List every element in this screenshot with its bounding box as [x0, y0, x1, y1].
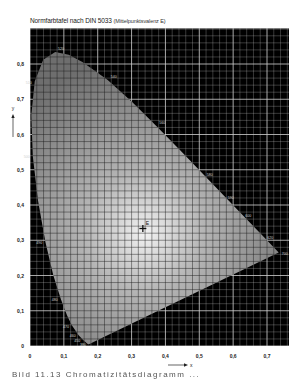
wavelength-label: 520 — [58, 47, 64, 51]
figure-caption: Bild 11.13 Chromatizitätsdiagramm ... — [12, 370, 200, 379]
y-tick-label: 0,7 — [17, 96, 24, 102]
x-tick-label: 0,6 — [230, 353, 237, 359]
y-tick-label: 0 — [21, 343, 24, 349]
x-axis-label: x — [190, 362, 193, 368]
wavelength-label: 500 — [24, 155, 30, 159]
y-tick-label: 0,4 — [17, 202, 24, 208]
wavelength-label: 540 — [111, 75, 117, 79]
wavelength-label: 600 — [245, 214, 251, 218]
wavelength-label: 510 — [26, 81, 32, 85]
y-axis: 00,10,20,30,40,50,60,70,8y — [11, 61, 24, 349]
wavelength-label: 620 — [267, 236, 273, 240]
wavelength-label: 470 — [63, 325, 69, 329]
wavelength-label: 490 — [36, 241, 42, 245]
x-axis: 00,10,20,30,40,50,60,7x — [29, 353, 271, 368]
wavelength-label: 380 — [80, 343, 86, 347]
y-tick-label: 0,6 — [17, 132, 24, 138]
x-tick-label: 0 — [29, 353, 32, 359]
x-tick-label: 0,4 — [162, 353, 169, 359]
x-arrow-icon — [184, 363, 188, 366]
wavelength-label: 450 — [74, 339, 80, 343]
wavelength-label: 580 — [207, 173, 213, 177]
y-tick-label: 0,8 — [17, 61, 24, 67]
y-tick-label: 0,2 — [17, 273, 24, 279]
y-arrow-icon — [11, 114, 14, 118]
x-tick-label: 0,2 — [94, 353, 101, 359]
wavelength-label: 590 — [228, 196, 234, 200]
wavelength-label: 560 — [159, 121, 165, 125]
y-axis-label: y — [12, 105, 15, 111]
y-tick-label: 0,1 — [17, 308, 24, 314]
y-tick-label: 0,3 — [17, 237, 24, 243]
x-tick-label: 0,1 — [60, 353, 67, 359]
wavelength-label: 700 — [282, 252, 288, 256]
wavelength-label: 480 — [52, 298, 58, 302]
x-tick-label: 0,7 — [264, 353, 271, 359]
y-tick-label: 0,5 — [17, 167, 24, 173]
x-tick-label: 0,5 — [196, 353, 203, 359]
x-tick-label: 0,3 — [128, 353, 135, 359]
